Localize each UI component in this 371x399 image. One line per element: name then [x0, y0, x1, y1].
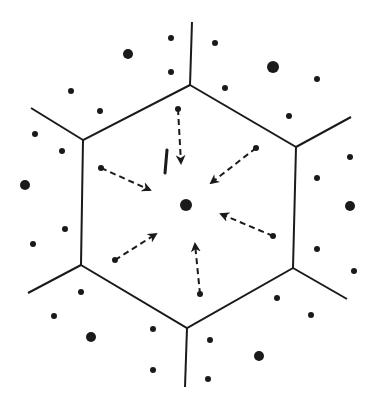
- dashed-arrow: [221, 214, 276, 239]
- atom-dot: [150, 326, 156, 332]
- dashed-arrow: [112, 234, 156, 263]
- dashed-arrow: [211, 145, 259, 183]
- dashed-arrow: [175, 106, 181, 163]
- atom-dot: [314, 76, 320, 82]
- atom-dot: [286, 113, 292, 119]
- arrow-origin-dot: [253, 145, 259, 151]
- outer-edge: [31, 108, 83, 140]
- outer-edge: [190, 22, 192, 85]
- atom-dot: [222, 85, 228, 91]
- atom-dot: [314, 246, 320, 252]
- dashed-arrow: [195, 244, 203, 297]
- atom-dot: [30, 241, 36, 247]
- outer-edge: [293, 268, 347, 299]
- atom-dot: [20, 180, 30, 190]
- atom-dot: [351, 268, 357, 274]
- atom-dot: [59, 148, 65, 154]
- short-tick-mark: [165, 150, 167, 173]
- dashed-arrow: [98, 165, 150, 190]
- atom-dot: [123, 49, 133, 59]
- central-atom-dot: [180, 199, 192, 211]
- atom-dot: [345, 201, 355, 211]
- atom-dot: [205, 376, 211, 382]
- arrow-origin-dot: [270, 233, 276, 239]
- atom-dot: [168, 35, 174, 41]
- atom-dot: [78, 289, 84, 295]
- atom-dot: [168, 69, 174, 75]
- atom-dot: [97, 108, 103, 114]
- atom-dot: [274, 295, 280, 301]
- atom-dot: [150, 367, 156, 373]
- atom-dot: [267, 61, 279, 73]
- hexagonal-cell-diagram: [0, 0, 371, 399]
- atom-dot: [254, 351, 264, 361]
- outer-edge: [28, 265, 81, 293]
- atom-dot: [314, 175, 320, 181]
- atom-dot: [62, 226, 68, 232]
- outer-edge: [296, 117, 351, 147]
- outer-edge: [185, 328, 187, 387]
- diagram-canvas: [0, 0, 371, 399]
- atom-dot: [68, 88, 74, 94]
- arrow-origin-dot: [197, 291, 203, 297]
- arrow-origin-dot: [98, 165, 104, 171]
- atom-dot: [32, 131, 38, 137]
- atom-dot: [86, 332, 96, 342]
- atom-dot: [347, 154, 353, 160]
- atom-dot: [308, 312, 314, 318]
- atom-dot: [51, 313, 57, 319]
- atom-dot: [212, 40, 218, 46]
- arrow-origin-dot: [112, 257, 118, 263]
- arrow-origin-dot: [175, 106, 181, 112]
- atom-dot: [207, 337, 213, 343]
